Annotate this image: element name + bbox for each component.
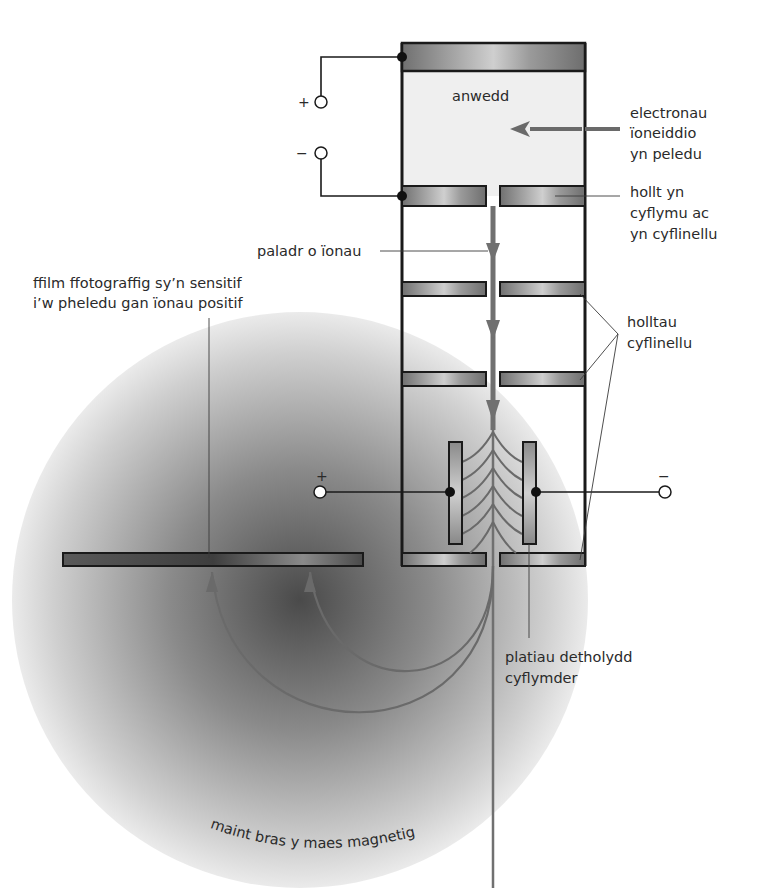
accelerating-slit-label-line1: hollt yn xyxy=(630,184,684,200)
collimating-slits-label-line2: cyflinellu xyxy=(627,335,692,351)
accelerating-slit-left xyxy=(402,186,486,206)
photographic-film xyxy=(63,553,363,566)
top-electrode-plate xyxy=(402,43,585,71)
film-label-line1: ffilm ffotograffig sy’n sensitif xyxy=(33,275,243,291)
ion-beam-label: paladr o ïonau xyxy=(257,243,361,259)
mass-spectrometer-diagram: + − + − anwedd electronau ïoneiddio yn p… xyxy=(0,0,758,888)
junction-dot xyxy=(531,487,541,497)
collimating-slit-1-left xyxy=(402,282,486,296)
terminal-minus-selector xyxy=(659,486,671,498)
ionising-electrons-label-line3: yn peledu xyxy=(630,146,702,162)
junction-dot xyxy=(397,52,407,62)
junction-dot xyxy=(445,487,455,497)
collimating-slit-2-right xyxy=(500,372,585,386)
velocity-selector-label-line1: platiau detholydd xyxy=(505,649,632,665)
terminal-plus-selector xyxy=(314,486,326,498)
velocity-selector-label-line2: cyflymder xyxy=(505,670,578,686)
terminal-minus-top xyxy=(315,147,327,159)
plus-sign: + xyxy=(298,94,310,110)
minus-sign: − xyxy=(296,145,308,161)
magnetic-field-region xyxy=(12,312,588,888)
accelerating-slit-label-line2: cyflymu ac xyxy=(630,205,709,221)
junction-dot xyxy=(397,191,407,201)
ionising-electrons-label-line1: electronau xyxy=(630,105,707,121)
accelerating-voltage-circuit xyxy=(321,57,402,196)
exit-slit-right xyxy=(500,553,585,566)
collimating-slit-1-right xyxy=(500,282,585,296)
accelerating-slit-label-line3: yn cyflinellu xyxy=(630,226,717,242)
ionising-electrons-label-line2: ïoneiddio xyxy=(629,125,696,141)
exit-slit-left xyxy=(402,553,486,566)
minus-sign: − xyxy=(658,468,670,484)
plus-sign: + xyxy=(316,468,328,484)
terminal-plus-top xyxy=(315,96,327,108)
vapour-label: anwedd xyxy=(452,88,509,104)
collimating-slits-label-line1: holltau xyxy=(627,314,677,330)
collimating-slit-2-left xyxy=(402,372,486,386)
film-label-line2: i’w pheledu gan ïonau positif xyxy=(33,295,243,311)
